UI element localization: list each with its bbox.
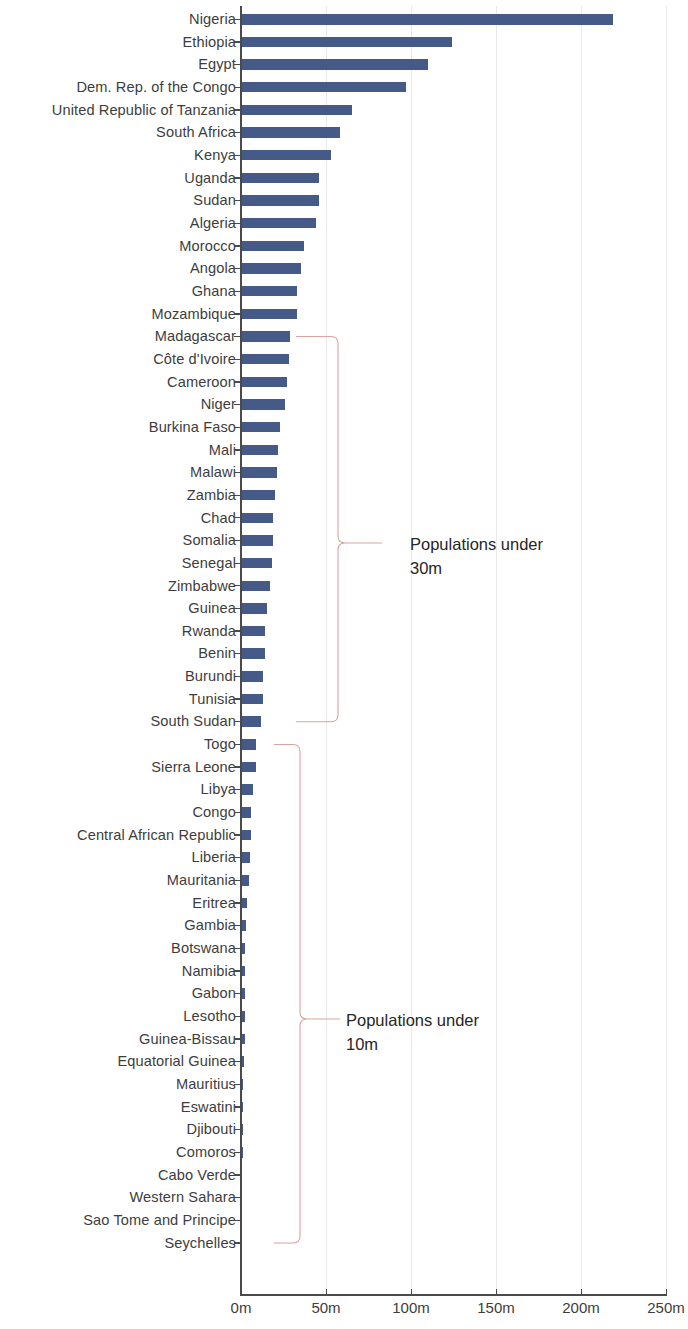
bar-row[interactable]: Mauritius xyxy=(0,1073,688,1096)
bar[interactable] xyxy=(241,422,280,433)
bar-row[interactable]: Zimbabwe xyxy=(0,575,688,598)
bar[interactable] xyxy=(241,241,304,252)
bar-row[interactable]: Eritrea xyxy=(0,892,688,915)
bar[interactable] xyxy=(241,331,290,342)
bar[interactable] xyxy=(241,513,273,524)
bar-row[interactable]: Western Sahara xyxy=(0,1186,688,1209)
bar[interactable] xyxy=(241,943,245,954)
bar-row[interactable]: Senegal xyxy=(0,552,688,575)
bar-row[interactable]: Somalia xyxy=(0,529,688,552)
bar[interactable] xyxy=(241,127,340,138)
bar-row[interactable]: South Africa xyxy=(0,121,688,144)
bar[interactable] xyxy=(241,467,277,478)
bar-row[interactable]: Eswatini xyxy=(0,1096,688,1119)
bar-row[interactable]: Rwanda xyxy=(0,620,688,643)
bar[interactable] xyxy=(241,82,406,93)
bar[interactable] xyxy=(241,37,452,48)
bar-row[interactable]: Benin xyxy=(0,642,688,665)
bar[interactable] xyxy=(241,377,287,388)
bar[interactable] xyxy=(241,581,270,592)
bar[interactable] xyxy=(241,852,250,863)
bar[interactable] xyxy=(241,150,331,161)
bar-row[interactable]: Zambia xyxy=(0,484,688,507)
bar-row[interactable]: Cabo Verde xyxy=(0,1164,688,1187)
bar-row[interactable]: Central African Republic xyxy=(0,824,688,847)
bar-row[interactable]: Equatorial Guinea xyxy=(0,1050,688,1073)
bar[interactable] xyxy=(241,671,263,682)
bar[interactable] xyxy=(241,445,278,456)
bar-row[interactable]: Algeria xyxy=(0,212,688,235)
bar-row[interactable]: Ghana xyxy=(0,280,688,303)
bar-row[interactable]: Sao Tome and Principe xyxy=(0,1209,688,1232)
bar[interactable] xyxy=(241,218,316,229)
bar-row[interactable]: United Republic of Tanzania xyxy=(0,99,688,122)
bar[interactable] xyxy=(241,898,247,909)
bar-row[interactable]: Mozambique xyxy=(0,303,688,326)
bar[interactable] xyxy=(241,648,265,659)
bar[interactable] xyxy=(241,694,263,705)
bar[interactable] xyxy=(241,535,273,546)
bar[interactable] xyxy=(241,807,251,818)
bar-row[interactable]: Malawi xyxy=(0,461,688,484)
bar[interactable] xyxy=(241,263,301,274)
bar[interactable] xyxy=(241,59,428,70)
bar[interactable] xyxy=(241,875,249,886)
bar-row[interactable]: Comoros xyxy=(0,1141,688,1164)
bar-row[interactable]: Guinea xyxy=(0,597,688,620)
bar[interactable] xyxy=(241,490,275,501)
bar[interactable] xyxy=(241,195,319,206)
bar-row[interactable]: Ethiopia xyxy=(0,31,688,54)
bar[interactable] xyxy=(241,354,289,365)
bar-row[interactable]: Burundi xyxy=(0,665,688,688)
bar-row[interactable]: South Sudan xyxy=(0,710,688,733)
bar[interactable] xyxy=(241,173,319,184)
category-label: Sudan xyxy=(193,189,236,212)
bar-row[interactable]: Chad xyxy=(0,507,688,530)
bar[interactable] xyxy=(241,558,272,569)
bar-row[interactable]: Lesotho xyxy=(0,1005,688,1028)
bar-row[interactable]: Sudan xyxy=(0,189,688,212)
bar-row[interactable]: Seychelles xyxy=(0,1232,688,1255)
bar-row[interactable]: Libya xyxy=(0,778,688,801)
bar[interactable] xyxy=(241,784,253,795)
bar[interactable] xyxy=(241,286,297,297)
bar[interactable] xyxy=(241,762,256,773)
bar-row[interactable]: Uganda xyxy=(0,167,688,190)
bar-row[interactable]: Gambia xyxy=(0,914,688,937)
bar[interactable] xyxy=(241,105,352,116)
bar-row[interactable]: Morocco xyxy=(0,235,688,258)
bar[interactable] xyxy=(241,830,251,841)
bar-row[interactable]: Côte d'Ivoire xyxy=(0,348,688,371)
bar-row[interactable]: Congo xyxy=(0,801,688,824)
bar-row[interactable]: Mali xyxy=(0,439,688,462)
bar-row[interactable]: Namibia xyxy=(0,960,688,983)
bar-row[interactable]: Nigeria xyxy=(0,8,688,31)
bar[interactable] xyxy=(241,399,285,410)
bar[interactable] xyxy=(241,626,265,637)
bar-row[interactable]: Gabon xyxy=(0,982,688,1005)
bar-row[interactable]: Guinea-Bissau xyxy=(0,1028,688,1051)
bar-row[interactable]: Angola xyxy=(0,257,688,280)
bar-row[interactable]: Madagascar xyxy=(0,325,688,348)
bar[interactable] xyxy=(241,716,261,727)
bar-row[interactable]: Cameroon xyxy=(0,371,688,394)
bar-row[interactable]: Djibouti xyxy=(0,1118,688,1141)
bar-row[interactable]: Botswana xyxy=(0,937,688,960)
bar-row[interactable]: Burkina Faso xyxy=(0,416,688,439)
bar[interactable] xyxy=(241,309,297,320)
bar-row[interactable]: Mauritania xyxy=(0,869,688,892)
bar[interactable] xyxy=(241,739,256,750)
bar-row[interactable]: Dem. Rep. of the Congo xyxy=(0,76,688,99)
bar-row[interactable]: Egypt xyxy=(0,53,688,76)
bar[interactable] xyxy=(241,14,613,25)
bar[interactable] xyxy=(241,966,245,977)
bar[interactable] xyxy=(241,603,267,614)
bar[interactable] xyxy=(241,920,246,931)
bar-row[interactable]: Kenya xyxy=(0,144,688,167)
bar-row[interactable]: Tunisia xyxy=(0,688,688,711)
bar[interactable] xyxy=(241,988,245,999)
bar-row[interactable]: Sierra Leone xyxy=(0,756,688,779)
bar-row[interactable]: Niger xyxy=(0,393,688,416)
bar-row[interactable]: Liberia xyxy=(0,846,688,869)
bar-row[interactable]: Togo xyxy=(0,733,688,756)
